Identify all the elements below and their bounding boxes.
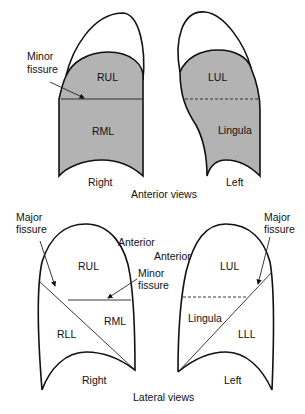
lateral-left-lobe-lingula: Lingula [188,312,222,324]
anterior-minor-fissure-label-line2: fissure [27,63,58,75]
anterior-right-side-label: Right [88,176,113,188]
lateral-right-lobe-rll: RLL [57,328,76,340]
lateral-left-major-fissure-label-line1: Major [264,211,291,223]
lateral-right-outline [38,224,135,390]
lateral-right-minor-fissure-label-line1: Minor [138,267,165,279]
lateral-views-caption: Lateral views [133,391,194,403]
lateral-right-major-fissure-label-line2: fissure [16,223,47,235]
lateral-right-lobe-rul: RUL [78,260,99,272]
anterior-left-lobe-lul: LUL [208,71,227,83]
lateral-left-lobe-lll: LLL [238,328,256,340]
lateral-left-outline [178,224,274,390]
lateral-left-lung [178,224,274,390]
anterior-right-lung [50,13,144,176]
lateral-left-anterior-label: Anterior [154,250,191,262]
anterior-right-lobe-rul: RUL [97,71,118,83]
lateral-right-major-fissure-label-line1: Major [16,211,43,223]
lateral-right-lobe-rml: RML [104,315,126,327]
anterior-left-lobes-shaded [180,50,260,176]
lateral-right-lung [38,224,137,390]
lateral-left-side-label: Left [224,374,242,386]
lateral-right-anterior-label: Anterior [118,236,155,248]
anterior-views-caption: Anterior views [131,188,197,200]
anterior-left-side-label: Left [226,176,244,188]
lateral-right-side-label: Right [82,374,107,386]
anterior-minor-fissure-label-line1: Minor [27,50,54,62]
anterior-left-lobe-lingula: Lingula [218,124,252,136]
lung-lobes-diagram: Minor fissure RUL RML Right LUL Lingula … [0,0,305,414]
anterior-right-lobe-rml: RML [92,125,114,137]
lateral-left-major-fissure-label-line2: fissure [264,223,295,235]
lateral-left-major-fissure-arrow [258,237,270,284]
anterior-left-lung [178,12,260,176]
lateral-left-lobe-lul: LUL [220,260,239,272]
lateral-right-minor-fissure-label-line2: fissure [138,279,169,291]
